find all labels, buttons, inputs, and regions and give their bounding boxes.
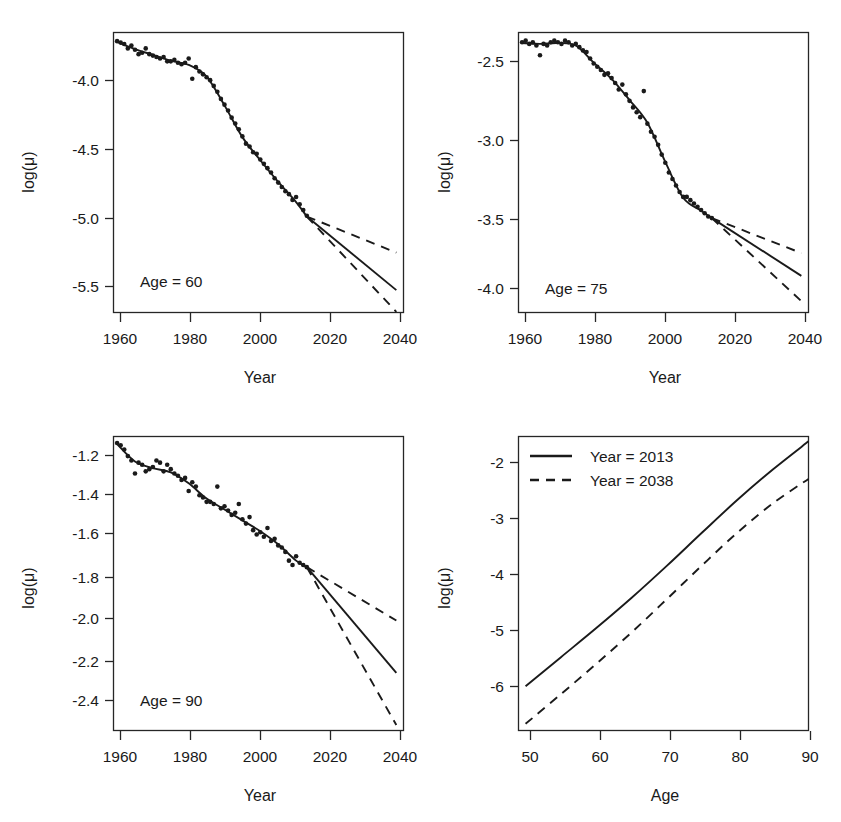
x-tick-label: 1980 [173, 748, 208, 765]
data-point [247, 515, 252, 520]
y-axis-ticks [105, 456, 113, 701]
x-tick-label: 2040 [383, 330, 418, 347]
plot-box [519, 33, 809, 313]
x-axis-title: Year [244, 787, 277, 804]
data-point [186, 56, 191, 61]
x-tick-label: 2040 [383, 748, 418, 765]
series-fitted [117, 42, 307, 217]
y-tick-label: -4.5 [72, 141, 99, 158]
series-Year = 2038 [526, 479, 809, 724]
x-axis-ticks [121, 731, 401, 740]
panel-annotation: Age = 75 [545, 280, 607, 297]
data-point [684, 195, 689, 200]
y-axis-title: log(μ) [20, 567, 37, 608]
y-tick-label: -1.4 [72, 486, 99, 503]
data-point [265, 526, 270, 531]
series-forecast-lower-95 [307, 567, 397, 725]
panel-1-data [115, 39, 397, 312]
data-point [186, 489, 191, 494]
x-tick-label: 80 [731, 748, 749, 765]
data-point [294, 195, 299, 200]
y-tick-label: -4.0 [72, 72, 99, 89]
series-forecast-lower-95 [307, 217, 397, 312]
y-axis-ticks [510, 463, 518, 687]
y-tick-label: -3.0 [477, 132, 504, 149]
series-fitted [522, 43, 712, 218]
y-tick-label: -5.5 [72, 278, 99, 295]
data-point [620, 82, 625, 87]
x-axis-ticks [526, 313, 806, 322]
legend: Year = 2013 Year = 2038 [530, 448, 673, 489]
y-axis-title: log(μ) [436, 151, 453, 192]
y-tick-label: -5 [490, 622, 504, 639]
x-tick-label: 1960 [103, 748, 138, 765]
series-forecast [307, 567, 397, 673]
y-tick-label: -4 [490, 566, 504, 583]
panel-1-axes: -4.0 -4.5 -5.0 -5.5 1960 1980 2000 2020 … [20, 33, 418, 387]
data-point [642, 89, 647, 94]
y-tick-label: -6 [490, 678, 504, 695]
data-point [290, 563, 295, 568]
series-forecast-upper-95 [307, 217, 397, 253]
y-axis-ticks [510, 62, 518, 289]
y-axis-ticks [105, 81, 113, 287]
y-tick-label: -2.0 [72, 610, 99, 627]
panel-age-60: -4.0 -4.5 -5.0 -5.5 1960 1980 2000 2020 … [0, 0, 420, 410]
data-point [158, 460, 163, 465]
y-tick-label: -2.2 [72, 653, 99, 670]
x-tick-label: 2020 [313, 748, 348, 765]
x-tick-label: 1960 [508, 330, 543, 347]
y-tick-label: -5.0 [72, 210, 99, 227]
panel-age-75: -2.5 -3.0 -3.5 -4.0 1960 1980 2000 2020 … [420, 0, 841, 410]
y-tick-label: -2 [490, 454, 504, 471]
data-point [215, 484, 220, 489]
panel-2-axes: -2.5 -3.0 -3.5 -4.0 1960 1980 2000 2020 … [436, 33, 823, 387]
series-forecast [307, 217, 397, 291]
x-axis-ticks [121, 313, 401, 322]
x-tick-label: 2000 [243, 748, 278, 765]
y-tick-label: -1.6 [72, 525, 99, 542]
panel-annotation: Age = 90 [140, 692, 203, 709]
data-point [168, 467, 173, 472]
data-point [294, 554, 299, 559]
data-point [143, 46, 148, 51]
data-point [287, 558, 292, 563]
data-point [237, 502, 242, 507]
x-axis-title: Age [651, 787, 680, 804]
y-tick-label: -4.0 [477, 280, 504, 297]
panel-4-axes: -2 -3 -4 -5 -6 50 60 70 80 90 Age log(μ [436, 437, 819, 805]
data-point [133, 471, 138, 476]
y-tick-label: -3.5 [477, 211, 504, 228]
y-tick-label: -3 [490, 510, 504, 527]
x-tick-label: 70 [661, 748, 679, 765]
y-tick-label: -2.5 [477, 53, 504, 70]
panel-age-profile: -2 -3 -4 -5 -6 50 60 70 80 90 Age log(μ [420, 410, 841, 822]
y-axis-title: log(μ) [436, 567, 453, 608]
x-axis-title: Year [649, 369, 682, 386]
x-tick-label: 2000 [648, 330, 683, 347]
y-tick-label: -1.2 [72, 447, 99, 464]
data-point [538, 53, 543, 58]
x-tick-label: 1980 [173, 330, 208, 347]
data-point [190, 76, 195, 81]
y-axis-title: log(μ) [20, 151, 37, 192]
x-tick-label: 90 [801, 748, 819, 765]
x-tick-label: 60 [591, 748, 609, 765]
panel-3-axes: -1.2 -1.4 -1.6 -1.8 -2.0 -2.2 -2.4 1960 … [20, 437, 418, 805]
panel-3-data [115, 441, 397, 725]
panel-age-90: -1.2 -1.4 -1.6 -1.8 -2.0 -2.2 -2.4 1960 … [0, 410, 420, 822]
series-fitted [117, 444, 307, 567]
panel-annotation: Age = 60 [140, 273, 203, 290]
x-tick-label: 2040 [788, 330, 823, 347]
x-tick-label: 2020 [718, 330, 753, 347]
x-tick-label: 2020 [313, 330, 348, 347]
data-point [165, 463, 170, 468]
series-forecast-upper-95 [307, 567, 397, 620]
legend-label-2013: Year = 2013 [590, 448, 673, 465]
x-tick-label: 50 [521, 748, 539, 765]
y-tick-label: -2.4 [72, 692, 99, 709]
panel-2-data [520, 38, 802, 301]
series-forecast-lower-95 [712, 218, 802, 301]
x-tick-label: 2000 [243, 330, 278, 347]
plot-box [114, 33, 404, 313]
